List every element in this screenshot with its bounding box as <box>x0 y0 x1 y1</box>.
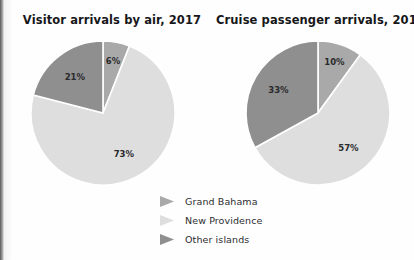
chart-legend: Grand Bahama New Providence Other island… <box>158 192 338 249</box>
pie-slice-label-other-islands: 33% <box>268 85 289 95</box>
chart-panel-visitor-arrivals-by-air: Visitor arrivals by air, 2017 6%73%21% <box>14 0 210 200</box>
triangle-right-shape <box>160 196 174 207</box>
chart-title-cruise-passenger-arrivals: Cruise passenger arrivals, 2017 <box>216 13 414 27</box>
pie-svg-right: 10%57%33% <box>244 39 392 187</box>
page-scan-edge-fade <box>5 0 12 260</box>
pie-slices-left <box>31 41 175 185</box>
triangle-right-icon <box>158 214 176 227</box>
triangle-right-icon <box>158 233 176 246</box>
pie-svg-left: 6%73%21% <box>29 39 177 187</box>
legend-item-other-islands: Other islands <box>158 230 338 249</box>
chart-title-visitor-arrivals-by-air: Visitor arrivals by air, 2017 <box>14 13 210 27</box>
pie-slice-label-new-providence: 73% <box>114 149 135 159</box>
legend-item-new-providence: New Providence <box>158 211 338 230</box>
figure-page: Visitor arrivals by air, 2017 6%73%21% C… <box>0 0 414 260</box>
pie-slice-label-other-islands: 21% <box>65 72 86 82</box>
legend-label-grand-bahama: Grand Bahama <box>185 196 258 207</box>
legend-label-new-providence: New Providence <box>185 215 262 226</box>
pie-slices-right <box>246 41 390 185</box>
triangle-right-icon <box>158 195 176 208</box>
triangle-right-shape <box>160 234 174 245</box>
pie-slice-label-new-providence: 57% <box>338 143 359 153</box>
legend-item-grand-bahama: Grand Bahama <box>158 192 338 211</box>
triangle-right-shape <box>160 215 174 226</box>
pie-slice-label-grand-bahama: 6% <box>106 56 121 66</box>
pie-slice-label-grand-bahama: 10% <box>324 57 345 67</box>
chart-panel-cruise-passenger-arrivals: Cruise passenger arrivals, 2017 10%57%33… <box>216 0 414 200</box>
pie-chart-cruise-passenger-arrivals: 10%57%33% <box>244 39 392 187</box>
legend-label-other-islands: Other islands <box>185 234 249 245</box>
pie-chart-visitor-arrivals-by-air: 6%73%21% <box>29 39 177 187</box>
